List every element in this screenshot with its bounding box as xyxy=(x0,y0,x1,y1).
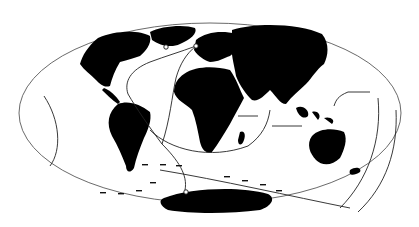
landmass-asia xyxy=(231,25,327,104)
route-pacific-east xyxy=(340,98,379,208)
landmass-south-america xyxy=(109,102,151,171)
landmass-madagascar xyxy=(238,131,245,144)
world-map xyxy=(0,0,419,227)
route-eastern-pacific xyxy=(44,96,58,166)
landmass-antarctica xyxy=(161,189,273,213)
breeding-site-marker xyxy=(164,45,168,49)
route-indian-ocean xyxy=(238,116,302,126)
landmass-greenland xyxy=(150,26,196,46)
landmass-central-america xyxy=(102,88,120,104)
landmass-australia xyxy=(309,129,346,164)
breeding-site-marker xyxy=(184,190,188,194)
route-asia-pacific xyxy=(334,92,370,106)
landmass-new-zealand xyxy=(350,168,361,175)
landmass-africa xyxy=(174,67,244,152)
landmass-north-america xyxy=(80,32,150,87)
landmass-europe xyxy=(194,32,238,62)
landmass-indonesia xyxy=(296,107,333,124)
breeding-site-marker xyxy=(194,44,198,48)
route-pacific-outer xyxy=(358,110,396,212)
